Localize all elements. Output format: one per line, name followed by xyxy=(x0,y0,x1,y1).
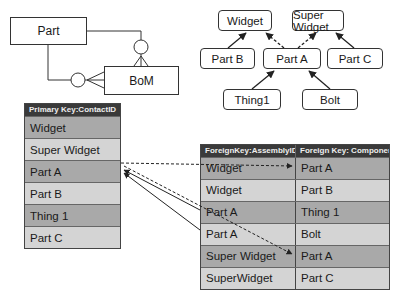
cell-assembly: SuperWidget xyxy=(201,268,296,289)
bom-table: ForeignKey:AssemblyID Foreign Key: Compo… xyxy=(200,144,390,290)
table-row: Part AThing 1 xyxy=(201,201,389,223)
table-row: Super WidgetPart A xyxy=(201,245,389,267)
cell-assembly: Super Widget xyxy=(201,246,296,267)
node-part-b: Part B xyxy=(200,48,255,69)
table-row: Part C xyxy=(25,226,120,248)
entity-label: Part xyxy=(37,24,59,38)
node-label: Part A xyxy=(276,53,307,65)
node-part-a: Part A xyxy=(263,48,321,69)
column-header-component: Foreign Key: ComponentID xyxy=(296,145,389,157)
entity-bom: BoM xyxy=(104,66,179,95)
table-row: Part A xyxy=(25,160,120,182)
cell-component: Part B xyxy=(296,180,389,201)
cell-component: Part C xyxy=(296,268,389,289)
node-label: Bolt xyxy=(320,94,340,106)
node-label: Widget xyxy=(227,15,263,27)
table-row: WidgetPart A xyxy=(201,157,389,179)
node-super-widget: Super Widget xyxy=(292,10,344,31)
node-widget: Widget xyxy=(218,10,272,31)
cell-component: Bolt xyxy=(296,224,389,245)
node-label: Super Widget xyxy=(293,9,343,33)
table-row: Part B xyxy=(25,182,120,204)
table-row: Thing 1 xyxy=(25,204,120,226)
node-label: Part B xyxy=(212,53,244,65)
cell-assembly: Part A xyxy=(201,224,296,245)
entity-part: Part xyxy=(10,17,87,45)
cell-assembly: Widget xyxy=(201,180,296,201)
table-row: Super Widget xyxy=(25,138,120,160)
entity-label: BoM xyxy=(129,74,154,88)
node-label: Thing1 xyxy=(234,94,269,106)
node-part-c: Part C xyxy=(327,48,383,69)
table-row: SuperWidgetPart C xyxy=(201,267,389,289)
table-row: Widget xyxy=(25,116,120,138)
table-row: WidgetPart B xyxy=(201,179,389,201)
cell-assembly: Widget xyxy=(201,158,296,179)
bom-table-header: ForeignKey:AssemblyID Foreign Key: Compo… xyxy=(201,145,389,157)
cell-assembly: Part A xyxy=(201,202,296,223)
node-label: Part C xyxy=(339,53,372,65)
parts-table: Primary Key:ContactID Widget Super Widge… xyxy=(24,103,121,249)
column-header-assembly: ForeignKey:AssemblyID xyxy=(201,145,296,157)
node-bolt: Bolt xyxy=(302,89,358,110)
node-thing1: Thing1 xyxy=(223,89,281,110)
cell-component: Part A xyxy=(296,158,389,179)
parts-table-header: Primary Key:ContactID xyxy=(25,104,120,116)
table-row: Part ABolt xyxy=(201,223,389,245)
cell-component: Thing 1 xyxy=(296,202,389,223)
cell-component: Part A xyxy=(296,246,389,267)
